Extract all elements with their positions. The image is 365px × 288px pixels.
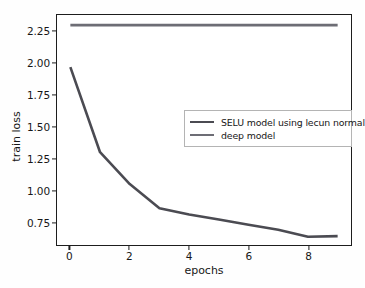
y-axis-tick-label: 2.00	[4, 57, 50, 69]
y-axis-tick-label: 1.75	[4, 89, 50, 101]
x-axis-tick-label: 4	[169, 250, 209, 262]
x-axis-tick-label: 8	[289, 250, 329, 262]
y-axis-tick-label: 1.50	[4, 121, 50, 133]
legend-item[interactable]: SELU model using lecun normal	[190, 116, 346, 128]
x-axis-tick-label: 2	[109, 250, 149, 262]
x-axis-tick-mark	[129, 246, 130, 250]
x-axis-tick-mark	[69, 246, 70, 250]
legend-line-icon	[190, 134, 214, 137]
legend-item-label: deep model	[221, 130, 275, 141]
y-axis-tick-label: 0.75	[4, 217, 50, 229]
x-axis-tick-mark	[248, 246, 249, 250]
legend-line-icon	[190, 121, 214, 124]
x-axis-tick-mark	[188, 246, 189, 250]
y-axis-tick-label: 1.00	[4, 185, 50, 197]
y-axis-tick-label: 1.25	[4, 153, 50, 165]
x-axis-tick-label: 0	[49, 250, 89, 262]
series-line	[70, 67, 337, 237]
legend-item-label: SELU model using lecun normal	[221, 117, 365, 128]
chart-legend: SELU model using lecun normaldeep model	[184, 110, 352, 147]
legend-item[interactable]: deep model	[190, 129, 346, 141]
x-axis-tick-label: 6	[229, 250, 269, 262]
x-axis-tick-mark	[308, 246, 309, 250]
y-axis-tick-label: 2.25	[4, 25, 50, 37]
x-axis-label: epochs	[56, 264, 352, 277]
